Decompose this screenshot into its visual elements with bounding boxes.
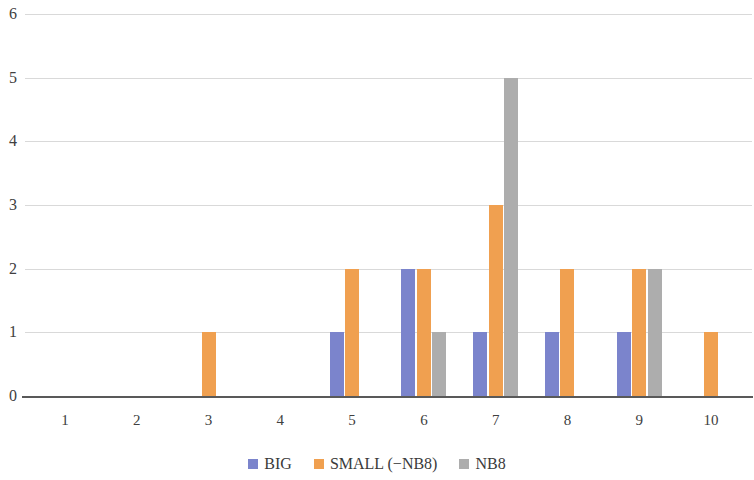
bar <box>330 332 344 396</box>
legend-label: BIG <box>264 455 292 473</box>
x-axis-tick-label: 8 <box>537 412 597 428</box>
x-axis-tick-label: 7 <box>466 412 526 428</box>
chart-legend: BIGSMALL (−NB8)NB8 <box>0 452 754 476</box>
legend-swatch-icon <box>314 459 324 469</box>
bar <box>617 332 631 396</box>
bar-chart: 0123456 12345678910 BIGSMALL (−NB8)NB8 <box>0 0 754 480</box>
x-axis-tick-label: 9 <box>609 412 669 428</box>
x-axis-tick-label: 6 <box>394 412 454 428</box>
bar <box>648 269 662 396</box>
bars-layer <box>0 0 754 396</box>
bar <box>704 332 718 396</box>
x-axis-tick-label: 3 <box>179 412 239 428</box>
x-axis-tick-label: 1 <box>35 412 95 428</box>
bar <box>345 269 359 396</box>
legend-label: NB8 <box>475 455 505 473</box>
bar <box>401 269 415 396</box>
plot-area: 0123456 12345678910 <box>0 0 754 400</box>
x-axis-tick-label: 2 <box>107 412 167 428</box>
legend-item[interactable]: NB8 <box>459 455 505 473</box>
bar <box>202 332 216 396</box>
x-axis-line <box>22 396 753 398</box>
legend-item[interactable]: SMALL (−NB8) <box>314 455 438 473</box>
bar <box>489 205 503 396</box>
bar <box>632 269 646 396</box>
bar <box>504 78 518 396</box>
bar <box>473 332 487 396</box>
bar <box>417 269 431 396</box>
x-axis-tick-label: 4 <box>250 412 310 428</box>
x-axis-tick-label: 10 <box>681 412 741 428</box>
bar <box>432 332 446 396</box>
legend-swatch-icon <box>459 459 469 469</box>
legend-swatch-icon <box>248 459 258 469</box>
x-axis-tick-label: 5 <box>322 412 382 428</box>
bar <box>545 332 559 396</box>
legend-label: SMALL (−NB8) <box>330 455 438 473</box>
bar <box>560 269 574 396</box>
legend-item[interactable]: BIG <box>248 455 292 473</box>
